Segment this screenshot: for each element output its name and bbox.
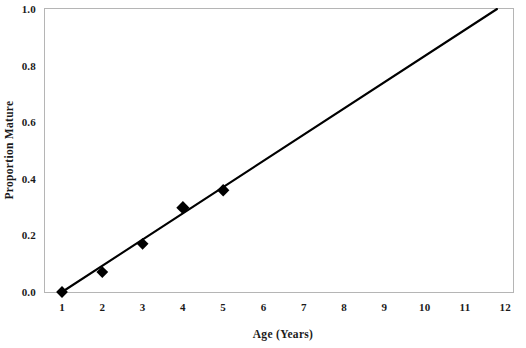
- ytick-label-1: 0.2: [4, 229, 36, 241]
- y-axis-title: Proportion Mature: [3, 101, 15, 200]
- xtick-label-4: 5: [220, 301, 226, 313]
- xtick-label-7: 8: [341, 301, 347, 313]
- xtick-label-3: 4: [180, 301, 186, 313]
- xtick-label-1: 2: [99, 301, 105, 313]
- xtick-label-5: 6: [261, 301, 267, 313]
- x-axis-title: Age (Years): [253, 328, 313, 340]
- xtick-label-9: 10: [419, 301, 430, 313]
- chart-figure: 0.0 0.2 0.4 0.6 0.8 1.0 1 2 3 4 5 6 7 8 …: [0, 0, 526, 348]
- ytick-label-5: 1.0: [4, 3, 36, 15]
- xtick-label-6: 7: [301, 301, 307, 313]
- ytick-label-0: 0.0: [4, 286, 36, 298]
- xtick-label-0: 1: [59, 301, 65, 313]
- xtick-label-10: 11: [460, 301, 471, 313]
- ytick-label-4: 0.8: [4, 60, 36, 72]
- xtick-label-2: 3: [140, 301, 146, 313]
- xtick-label-8: 9: [382, 301, 388, 313]
- plot-canvas: [0, 0, 526, 348]
- xtick-label-11: 12: [500, 301, 511, 313]
